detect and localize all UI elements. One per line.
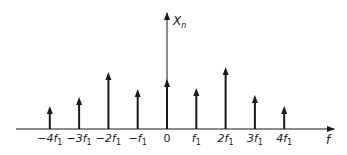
tick-label-f1: f1	[192, 132, 201, 147]
tick-label-4f1: 4f1	[276, 132, 292, 147]
tick-label--f1: −f1	[129, 132, 147, 147]
arrowhead-icon	[47, 106, 53, 114]
tick-label--3f1: −3f1	[67, 132, 92, 147]
tick-label--4f1: −4f1	[37, 132, 62, 147]
x-axis-label: f	[326, 133, 332, 147]
arrowhead-icon	[76, 97, 82, 105]
y-axis-label: Xn	[172, 14, 186, 30]
arrowhead-icon	[252, 95, 258, 103]
tick-label-2f1: 2f1	[218, 132, 234, 147]
arrowhead-icon	[105, 72, 111, 80]
arrowhead-icon	[135, 89, 141, 97]
line-spectrum-chart: Xn f −4f1−3f1−2f1−f10f12f13f14f1	[0, 0, 347, 155]
tick-label--2f1: −2f1	[96, 132, 121, 147]
frequency-tick-labels: −4f1−3f1−2f1−f10f12f13f14f1	[37, 132, 292, 147]
arrowhead-icon	[164, 79, 170, 87]
tick-label-3f1: 3f1	[247, 132, 263, 147]
y-axis-arrow-icon	[164, 12, 170, 20]
arrowhead-icon	[281, 106, 287, 114]
arrowhead-icon	[223, 67, 229, 75]
tick-label-0: 0	[164, 132, 171, 145]
arrowhead-icon	[193, 88, 199, 96]
